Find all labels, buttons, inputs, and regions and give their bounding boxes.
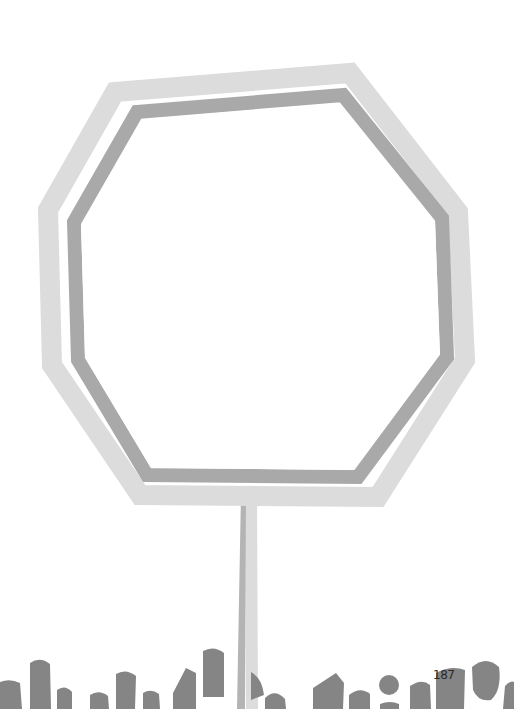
grass-clump (203, 648, 224, 697)
grass-clump (143, 691, 160, 709)
grass-clump (90, 692, 109, 709)
illustration-scene (0, 0, 514, 709)
grass-clump (410, 682, 431, 709)
grass-clump (379, 675, 399, 695)
page-number: 187 (433, 668, 454, 682)
grass-clump (265, 693, 286, 709)
grass-clump (313, 673, 344, 709)
grass-clump (472, 661, 500, 700)
grass-clump (349, 690, 370, 709)
grass-clump (0, 680, 22, 709)
grass-clump (173, 668, 196, 709)
octagon-sign (48, 73, 465, 497)
post-dark-strip (237, 492, 246, 709)
grass-clump (380, 702, 399, 709)
grass-clump (30, 660, 51, 709)
grass-clump (116, 671, 136, 709)
grass-clump (57, 687, 72, 709)
grass-clump (503, 682, 514, 709)
